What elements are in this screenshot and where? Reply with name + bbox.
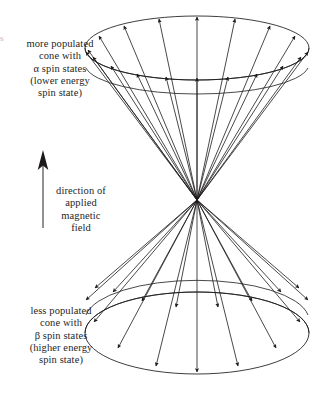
beta-label-line-1: less populated bbox=[6, 305, 116, 317]
field-direction-label: direction of applied magnetic field bbox=[48, 185, 114, 234]
spin-cone-diagram: s more populated cone with α spin states… bbox=[0, 0, 323, 395]
beta-label-line-2: cone with bbox=[6, 317, 116, 329]
field-label-line-3: magnetic bbox=[48, 210, 114, 222]
alpha-label-line-5: spin state) bbox=[8, 87, 112, 99]
beta-label-line-4: (higher energy bbox=[6, 342, 116, 354]
alpha-label-line-3: α spin states bbox=[8, 63, 112, 75]
beta-spin-cone-label: less populated cone with β spin states (… bbox=[6, 305, 116, 366]
beta-label-line-3: β spin states bbox=[6, 330, 116, 342]
page-edge-artifact: s bbox=[0, 33, 8, 43]
magnetic-field-direction-arrow bbox=[38, 150, 49, 228]
alpha-label-line-4: (lower energy bbox=[8, 75, 112, 87]
beta-spin-vectors bbox=[86, 200, 308, 372]
field-label-line-1: direction of bbox=[48, 185, 114, 197]
alpha-spin-cone-label: more populated cone with α spin states (… bbox=[8, 38, 112, 99]
field-label-line-4: field bbox=[48, 222, 114, 234]
beta-label-line-5: spin state) bbox=[6, 354, 116, 366]
field-label-line-2: applied bbox=[48, 197, 114, 209]
alpha-label-line-1: more populated bbox=[8, 38, 112, 50]
alpha-label-line-2: cone with bbox=[8, 50, 112, 62]
